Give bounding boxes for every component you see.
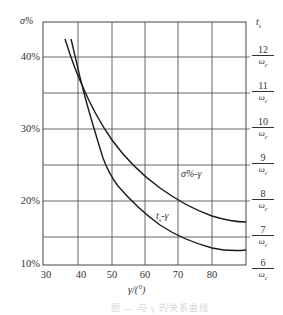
y-right-tick-6: 6 ωc (252, 257, 274, 284)
omega-sub: c (265, 62, 268, 68)
horizontal-gridlines (43, 57, 246, 237)
y-right-tick-9-num: 9 (252, 152, 274, 164)
figure-caption: 图 — 与 γ 的关系曲线 (50, 301, 270, 314)
omega-sub: c (265, 170, 268, 176)
y-right-tick-10: 10 ωc (252, 116, 274, 143)
omega-sub: c (265, 98, 268, 104)
y-left-tick-40: 40% (4, 51, 40, 62)
y-right-tick-12-den: ωc (252, 56, 274, 71)
x-axis-title: γ/(°) (128, 284, 145, 295)
y-right-tick-7-num: 7 (252, 224, 274, 236)
chart-plot-area (0, 0, 283, 315)
x-tick-60: 60 (135, 269, 155, 280)
x-tick-50: 50 (102, 269, 122, 280)
y-right-tick-9-den: ωc (252, 164, 274, 179)
x-tick-70: 70 (168, 269, 188, 280)
omega-sub: c (265, 134, 268, 140)
x-tick-80: 80 (202, 269, 222, 280)
y-right-tick-6-den: ωc (252, 269, 274, 284)
y-right-tick-12: 12 ωc (252, 44, 274, 71)
y-right-tick-8: 8 ωc (252, 188, 274, 215)
series-sigma-gamma-line (65, 39, 246, 222)
y-right-tick-12-num: 12 (252, 44, 274, 56)
omega-sub: c (265, 275, 268, 281)
right-axis-ticks (246, 57, 250, 237)
y-left-tick-10: 10% (4, 258, 40, 269)
y-right-tick-8-den: ωc (252, 200, 274, 215)
annotation-ts-gamma: ts-γ (156, 210, 168, 223)
y-right-tick-6-num: 6 (252, 257, 274, 269)
omega-sub: c (265, 206, 268, 212)
y-right-tick-11-num: 11 (252, 80, 274, 92)
y-right-tick-7-den: ωc (252, 236, 274, 251)
y-left-tick-20: 20% (4, 195, 40, 206)
y-right-tick-9: 9 ωc (252, 152, 274, 179)
y-right-tick-11-den: ωc (252, 92, 274, 107)
omega-sub: c (265, 242, 268, 248)
y-right-tick-10-num: 10 (252, 116, 274, 128)
y-left-tick-30: 30% (4, 123, 40, 134)
y-right-tick-10-den: ωc (252, 128, 274, 143)
y-right-tick-7: 7 ωc (252, 224, 274, 251)
annotation-ts-suffix: -γ (161, 210, 168, 221)
chart-figure: σ% 40% 30% 20% 10% 30 40 50 60 70 80 γ/(… (0, 0, 283, 315)
x-tick-40: 40 (71, 269, 91, 280)
y-right-tick-8-num: 8 (252, 188, 274, 200)
y-right-tick-11: 11 ωc (252, 80, 274, 107)
x-tick-30: 30 (36, 269, 56, 280)
plot-frame (43, 22, 246, 265)
annotation-sigma-gamma: σ%-γ (181, 168, 202, 179)
y-right-axis-title-sub: s (259, 23, 261, 29)
y-left-axis-title: σ% (20, 15, 33, 26)
y-right-axis-title: ts (256, 16, 261, 29)
